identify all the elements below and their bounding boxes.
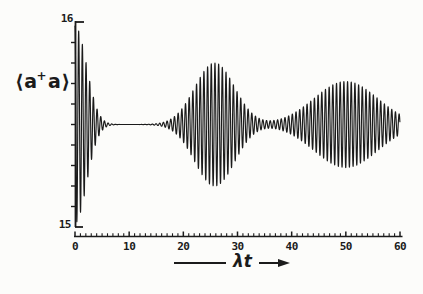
x-tick-label: 60 [394,241,406,252]
figure: 16 15 0102030405060 ⟨a+a⟩ λt [0,0,423,294]
x-tick-label: 0 [72,241,78,252]
x-tick-label: 50 [340,241,352,252]
signal-curve [75,26,400,222]
x-axis [74,232,403,237]
dagger-plus-superscript: + [37,69,48,83]
y-axis-title-pre: ⟨a [15,70,38,92]
x-axis-title-group: λt [174,252,290,274]
y-min-label: 15 [43,219,71,230]
chart-canvas [0,0,423,294]
y-axis-title-post: a⟩ [48,70,71,92]
x-axis-title: λt [233,253,252,273]
x-tick-label: 20 [177,241,189,252]
x-tick-label: 10 [123,241,135,252]
y-max-label: 16 [45,13,73,24]
arrow-right-icon [259,259,290,267]
y-axis-title: ⟨a+a⟩ [15,70,71,92]
dash-line-icon [174,262,226,264]
x-tick-label: 40 [286,241,298,252]
